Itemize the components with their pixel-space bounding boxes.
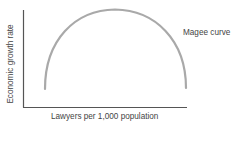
curve-annotation: Magee curve: [183, 28, 230, 37]
x-axis-label: Lawyers per 1,000 population: [51, 112, 158, 121]
magee-curve-chart: Economic growth rate Lawyers per 1,000 p…: [0, 0, 236, 141]
magee-curve-line: [45, 10, 186, 90]
y-axis-label: Economic growth rate: [5, 14, 17, 114]
